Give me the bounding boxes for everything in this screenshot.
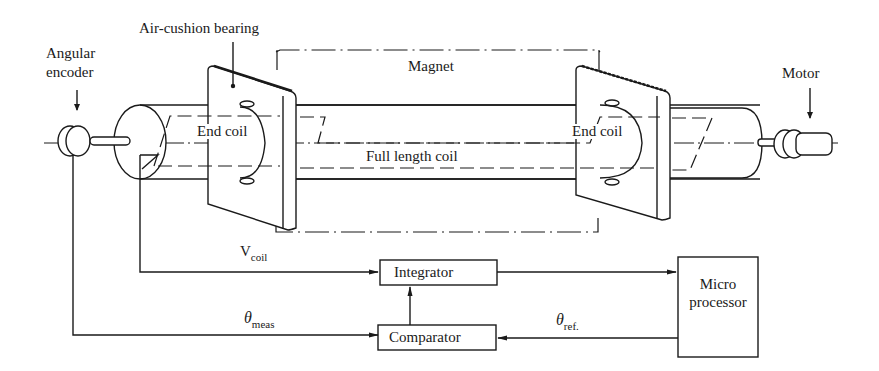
- angular-encoder-label-line1: Angular: [46, 46, 95, 61]
- theta-ref-main: θ: [556, 311, 564, 328]
- magnet-outline: [276, 50, 600, 232]
- motor-shape: [758, 130, 832, 158]
- end-coil-right-label: End coil: [570, 124, 624, 139]
- air-cushion-bearing-label: Air-cushion bearing: [139, 21, 259, 36]
- magnet-label: Magnet: [408, 59, 454, 74]
- comparator-label: Comparator: [389, 330, 461, 345]
- microprocessor-label: Micro processor: [678, 275, 758, 311]
- theta-ref-sub: ref.: [564, 320, 579, 332]
- v-coil-main: V: [240, 243, 251, 259]
- integrator-label: Integrator: [394, 265, 453, 280]
- end-coil-left-label: End coil: [195, 124, 249, 139]
- microprocessor-label-line2: processor: [678, 293, 758, 311]
- motor-label: Motor: [782, 66, 820, 81]
- microprocessor-label-line1: Micro: [678, 275, 758, 293]
- theta-meas-sub: meas: [252, 318, 275, 330]
- v-coil-sub: coil: [251, 251, 268, 263]
- full-length-coil-label: Full length coil: [366, 149, 458, 164]
- theta-meas-main: θ: [244, 309, 252, 326]
- theta-meas-signal-label: θmeas: [244, 310, 274, 330]
- left-bearing: [208, 66, 296, 230]
- theta-ref-signal-label: θref.: [556, 312, 579, 332]
- diagram-canvas: [0, 0, 879, 371]
- angular-encoder-label-line2: encoder: [46, 65, 95, 80]
- v-coil-signal-label: Vcoil: [240, 244, 267, 263]
- angular-encoder-label: Angular encoder: [46, 46, 95, 80]
